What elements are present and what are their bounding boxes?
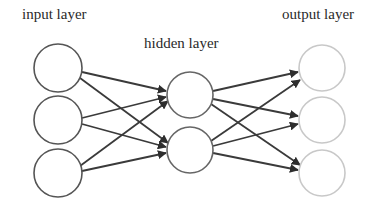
input-node-2: [34, 96, 82, 144]
output-node-1: [299, 45, 345, 91]
hidden-node-2: [167, 127, 213, 173]
input-node-1: [34, 44, 82, 92]
network-diagram: [0, 0, 383, 207]
output-node-2: [299, 97, 345, 143]
hidden-node-1: [167, 72, 213, 118]
output-node-3: [299, 150, 345, 196]
input-node-3: [34, 149, 82, 197]
